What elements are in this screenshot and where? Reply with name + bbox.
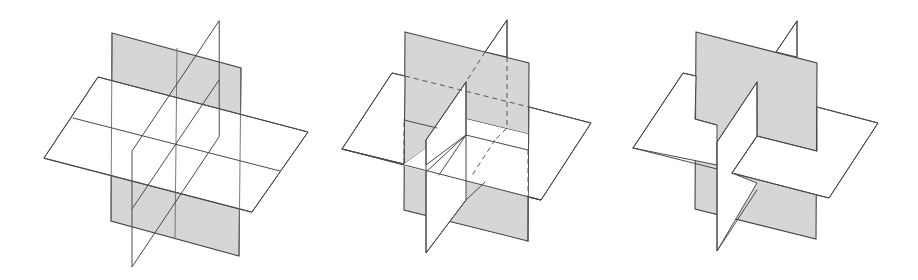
panel-opaque [633, 21, 878, 251]
figure-canvas [0, 0, 918, 280]
panel-wireframe [44, 21, 308, 267]
horizontal-plane-left-strip [342, 73, 405, 164]
panel-dashed-hidden [342, 20, 591, 253]
three-planes-figure [0, 0, 918, 280]
